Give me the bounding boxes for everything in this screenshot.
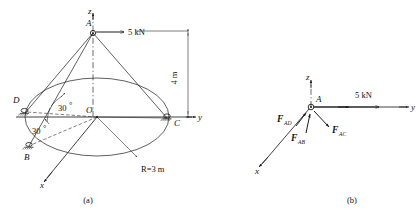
radius-ob	[31, 117, 97, 145]
label-support-d: D	[12, 95, 20, 105]
label-load-a: 5 kN	[128, 27, 145, 37]
angle-tick-upper	[61, 93, 65, 97]
label-load-b: 5 kN	[355, 90, 372, 100]
force-vector-ab	[306, 114, 310, 133]
force-vector-ac	[314, 111, 329, 127]
angle-lower-value: 30	[32, 126, 41, 136]
angle-label-upper: 30 °	[58, 100, 72, 113]
caption-panel-a: (a)	[83, 195, 93, 205]
apex-joint-dot	[92, 32, 94, 34]
label-support-b: B	[24, 152, 30, 162]
axis-label-z-b: z	[305, 72, 310, 82]
engineering-figure: A 5 kN z y x O D B C 30 ° 30 ° 4 m R=3 m…	[0, 0, 420, 213]
axis-x-a	[47, 117, 97, 178]
axis-label-z-a: z	[87, 6, 92, 16]
member-ad	[25, 33, 93, 113]
axis-label-y-a: y	[197, 112, 202, 122]
angle-lower-unit: °	[43, 123, 46, 133]
axis-label-x-b: x	[254, 166, 259, 176]
label-support-c: C	[174, 118, 181, 128]
member-ac	[93, 33, 167, 118]
dimension-height	[135, 29, 188, 118]
label-apex-a: A	[85, 18, 92, 28]
axis-x-arrow-a	[44, 172, 52, 182]
force-ac-subscript: AC	[338, 131, 346, 137]
axis-label-y-b: y	[410, 102, 415, 112]
angle-arc-lower	[47, 108, 50, 122]
force-label-ab: F AB	[290, 133, 305, 145]
caption-panel-b: (b)	[347, 195, 357, 205]
force-ac-symbol: F	[331, 125, 339, 135]
axis-x-arrow-b	[259, 157, 268, 167]
label-apex-b: A	[315, 94, 322, 104]
axis-x-b	[262, 109, 309, 164]
label-radius-dimension: R=3 m	[141, 164, 165, 174]
node-a-dot-b	[310, 106, 312, 108]
force-ad-symbol: F	[276, 114, 284, 124]
force-vector-ad	[296, 113, 306, 126]
support-d	[18, 108, 29, 115]
panel-a: A 5 kN z y x O D B C 30 ° 30 ° 4 m R=3 m…	[12, 6, 202, 205]
panel-b: A z y x 5 kN F AD F AB F AC (b)	[254, 72, 415, 205]
origin-dot-a	[96, 116, 98, 118]
force-ad-subscript: AD	[283, 120, 291, 126]
figure-root: A 5 kN z y x O D B C 30 ° 30 ° 4 m R=3 m…	[0, 0, 420, 213]
force-ab-subscript: AB	[297, 139, 305, 145]
force-label-ad: F AD	[276, 114, 291, 126]
label-height-dimension: 4 m	[169, 71, 179, 84]
force-ab-symbol: F	[290, 133, 298, 143]
force-label-ac: F AC	[331, 125, 346, 137]
label-origin-a: O	[86, 105, 93, 115]
radius-callout-line	[97, 117, 137, 157]
support-b	[23, 143, 34, 150]
axis-label-x-a: x	[39, 180, 44, 190]
angle-upper-unit: °	[69, 100, 72, 110]
angle-label-lower: 30 °	[32, 123, 46, 136]
angle-upper-value: 30	[58, 103, 67, 113]
